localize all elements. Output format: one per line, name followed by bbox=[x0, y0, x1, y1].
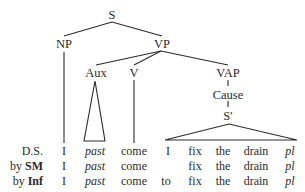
cell-embedded-subject: I bbox=[166, 145, 170, 157]
cell-tense: past bbox=[85, 175, 105, 187]
cell-determiner: the bbox=[216, 160, 231, 172]
cell-plural: pl bbox=[285, 145, 294, 157]
edge-s-vp bbox=[112, 22, 162, 36]
edge-vp-v bbox=[134, 51, 161, 65]
edge-vp-aux bbox=[96, 51, 161, 65]
node-cause: Cause bbox=[213, 89, 244, 101]
edge-vp-vap bbox=[161, 51, 228, 65]
node-aux: Aux bbox=[85, 67, 107, 79]
cell-plural: pl bbox=[285, 160, 294, 172]
row-label-inf: by Inf bbox=[0, 175, 43, 187]
row-label-ds: D.S. bbox=[0, 145, 43, 157]
cell-noun: drain bbox=[244, 160, 269, 172]
edge-s-np bbox=[64, 22, 112, 36]
node-s: S bbox=[109, 9, 116, 21]
cell-determiner: the bbox=[216, 175, 231, 187]
cell-subject: I bbox=[62, 175, 66, 187]
cell-determiner: the bbox=[216, 145, 231, 157]
cell-embedded-verb: fix bbox=[188, 145, 201, 157]
cell-infinitive-marker: to bbox=[161, 175, 170, 187]
node-s-prime: S′ bbox=[223, 110, 233, 122]
cell-embedded-verb: fix bbox=[188, 175, 201, 187]
cell-subject: I bbox=[62, 145, 66, 157]
node-vap: VAP bbox=[216, 67, 239, 79]
cell-tense: past bbox=[85, 145, 105, 157]
node-v: V bbox=[129, 67, 138, 79]
cell-verb: come bbox=[121, 145, 147, 157]
cell-verb: come bbox=[121, 160, 147, 172]
node-np: NP bbox=[56, 38, 72, 50]
cell-noun: drain bbox=[244, 175, 269, 187]
cell-embedded-verb: fix bbox=[188, 160, 201, 172]
aux-triangle bbox=[84, 81, 105, 141]
node-vp: VP bbox=[154, 38, 170, 50]
cell-subject: I bbox=[62, 160, 66, 172]
cell-noun: drain bbox=[244, 145, 269, 157]
cell-verb: come bbox=[121, 175, 147, 187]
sprime-triangle bbox=[165, 124, 297, 140]
cell-plural: pl bbox=[285, 175, 294, 187]
row-label-sm: by SM bbox=[0, 160, 43, 172]
cell-tense: past bbox=[85, 160, 105, 172]
